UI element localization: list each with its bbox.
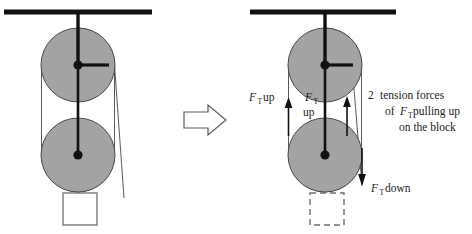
middle-tension-word: up [303, 106, 315, 119]
right-rope-down-arrow-head [358, 174, 366, 186]
note-line2-prefix: of [385, 105, 395, 117]
bottom-tension-subscript: T [380, 188, 385, 197]
left-rope-up-arrow-head [285, 97, 293, 108]
implies-arrow-shape [184, 105, 226, 135]
left-upper-pulley-hub [73, 60, 82, 69]
note-line2-symbol: F [399, 105, 408, 117]
note-count: 2 [368, 89, 374, 101]
bottom-tension-word: down [385, 182, 411, 194]
label-bottom-tension: F T down [370, 182, 411, 197]
rope-free-end [115, 65, 125, 198]
implies-arrow [184, 105, 226, 135]
diagram-canvas: F T up F T up F T down 2 tension forces … [0, 0, 472, 234]
tension-forces-note: 2 tension forces of F T pulling up on th… [368, 89, 460, 133]
right-upper-pulley-hub [320, 60, 329, 69]
right-lower-pulley-hub [320, 150, 329, 159]
right-block-dashed [310, 193, 344, 225]
middle-rope-up-arrow-head [343, 96, 351, 107]
left-panel [4, 12, 152, 225]
left-lower-pulley-hub [73, 150, 82, 159]
note-line1: tension forces [380, 89, 445, 101]
pulley-force-diagram: F T up F T up F T down 2 tension forces … [0, 0, 472, 234]
middle-tension-subscript: T [314, 97, 319, 106]
note-line2-suffix: pulling up [413, 105, 460, 118]
left-tension-symbol: F [248, 91, 257, 103]
middle-tension-symbol: F [304, 91, 313, 103]
left-tension-subscript: T [258, 97, 263, 106]
label-left-tension: F T up [248, 91, 275, 106]
bottom-tension-symbol: F [370, 182, 379, 194]
note-line3: on the block [399, 121, 456, 133]
right-panel: F T up F T up F T down 2 tension forces … [248, 12, 460, 225]
left-block [63, 193, 97, 225]
left-tension-word: up [263, 91, 275, 104]
